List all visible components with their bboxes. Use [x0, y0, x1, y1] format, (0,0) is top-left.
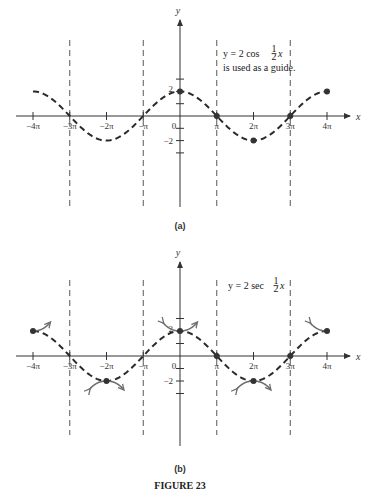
- annotation-text: y = 2 cos: [223, 48, 260, 59]
- data-point: [287, 113, 293, 119]
- data-point: [177, 88, 183, 94]
- x-tick-label: −2π: [99, 361, 114, 371]
- annotation-text: is used as a guide.: [223, 62, 296, 73]
- x-tick-label: −2π: [99, 121, 114, 131]
- x-tick-label: 2π: [249, 121, 259, 131]
- x-tick-label: π: [214, 361, 219, 371]
- x-tick-label: −π: [138, 121, 148, 131]
- x-tick-label: 3π: [286, 361, 296, 371]
- x-tick-label: π: [214, 121, 219, 131]
- fraction-denominator: 2: [272, 51, 277, 62]
- panel-a: xy2−2−4π−3π−2π−π0π2π3π4πy = 2 cos 12xis …: [16, 5, 361, 207]
- panel-a-label: (a): [175, 221, 186, 231]
- data-point: [287, 353, 293, 359]
- y-axis-label: y: [175, 247, 181, 258]
- fraction-variable: x: [277, 48, 283, 59]
- y-axis-label: y: [175, 5, 181, 16]
- annotation-text: y = 2 sec: [228, 280, 264, 291]
- data-point: [251, 378, 257, 384]
- x-tick-label: 3π: [286, 121, 296, 131]
- x-tick-label: −4π: [26, 361, 41, 371]
- panel-b: xy2−2−4π−3π−2π−π0π2π3π4πy = 2 sec 12x: [16, 247, 361, 446]
- x-tick-label: 2π: [249, 361, 259, 371]
- panel-b-label: (b): [174, 464, 186, 474]
- data-point: [214, 353, 220, 359]
- y-tick-label: −2: [163, 136, 173, 146]
- x-tick-label: −π: [138, 361, 148, 371]
- x-tick-label: 0: [172, 361, 177, 371]
- x-tick-label: 0: [172, 121, 177, 131]
- data-point: [324, 88, 330, 94]
- y-tick-label: −2: [163, 376, 173, 386]
- data-point: [214, 113, 220, 119]
- x-axis-label: x: [355, 111, 361, 122]
- data-point: [104, 378, 110, 384]
- data-point: [177, 328, 183, 334]
- data-point: [251, 138, 257, 144]
- x-axis-label: x: [355, 351, 361, 362]
- figure-caption: FIGURE 23: [154, 480, 205, 491]
- x-tick-label: 4π: [322, 121, 332, 131]
- fraction-variable: x: [279, 280, 285, 291]
- data-point: [324, 328, 330, 334]
- data-point: [30, 328, 36, 334]
- fraction-denominator: 2: [274, 283, 279, 294]
- figure-23: xy2−2−4π−3π−2π−π0π2π3π4πy = 2 cos 12xis …: [0, 0, 376, 498]
- x-tick-label: 4π: [322, 361, 332, 371]
- x-tick-label: −4π: [26, 121, 41, 131]
